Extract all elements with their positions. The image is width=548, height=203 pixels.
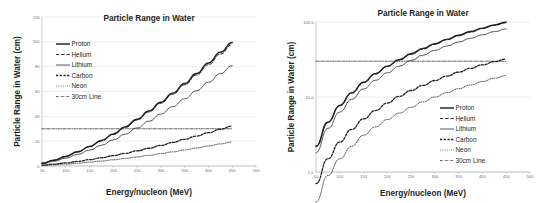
y-tick-label: 100.0: [303, 20, 314, 25]
legend-label-proton: Proton: [456, 104, 475, 111]
x-tick-label: 500: [527, 174, 535, 179]
curve-helium: [316, 23, 506, 147]
x-tick-label: 250: [134, 168, 142, 173]
x-axis-title: Energy/nucleon (MeV): [380, 189, 466, 198]
y-tick-label: 40: [35, 114, 40, 119]
x-tick-label: 200: [384, 174, 392, 179]
legend-label-helium: Helium: [456, 115, 476, 122]
curve-carbon: [316, 59, 506, 184]
x-tick-label: 250: [408, 174, 416, 179]
legend-label-proton: Proton: [72, 40, 91, 47]
y-tick-label: 80: [35, 64, 40, 69]
legend-label-30cm-line: 30cm Line: [72, 93, 102, 100]
x-tick-label: 150: [360, 174, 368, 179]
linear-chart-svg: 0204060801001205010015020025030035040045…: [0, 0, 274, 203]
legend: ProtonHeliumLithiumCarbonNeon30cm Line: [56, 40, 101, 99]
x-tick-label: 400: [479, 174, 487, 179]
log-chart-svg: 1.010.0100.05010015020025030035040045050…: [274, 0, 548, 203]
x-tick-label: 450: [503, 174, 511, 179]
curve-lithium: [42, 66, 232, 164]
y-tick-label: 120: [33, 15, 41, 20]
legend-label-carbon: Carbon: [72, 72, 93, 79]
x-tick-label: 50: [314, 174, 319, 179]
legend: ProtonHeliumLithiumCarbonNeon30cm Line: [440, 104, 485, 164]
curve-carbon: [42, 126, 232, 165]
chart-title: Particle Range in Water: [377, 9, 469, 18]
x-tick-label: 450: [229, 168, 237, 173]
curve-neon: [42, 142, 232, 165]
x-axis-title: Energy/nucleon (MeV): [106, 188, 192, 197]
y-tick-label: 100: [33, 39, 41, 44]
legend-label-lithium: Lithium: [456, 125, 477, 132]
linear-panel: 0204060801001205010015020025030035040045…: [0, 0, 274, 203]
legend-label-neon: Neon: [456, 146, 472, 153]
log-panel: 1.010.0100.05010015020025030035040045050…: [274, 0, 548, 203]
y-axis-title: Particle Range in Water (cm): [13, 36, 22, 147]
x-tick-label: 350: [455, 174, 463, 179]
x-tick-label: 200: [110, 168, 118, 173]
legend-label-30cm-line: 30cm Line: [456, 157, 486, 164]
x-tick-label: 100: [336, 174, 344, 179]
y-tick-label: 20: [35, 139, 40, 144]
x-tick-label: 300: [431, 174, 439, 179]
figure-two-panel-charts: 0204060801001205010015020025030035040045…: [0, 0, 548, 203]
x-tick-label: 150: [86, 168, 94, 173]
legend-label-lithium: Lithium: [72, 61, 93, 68]
x-tick-label: 100: [62, 168, 70, 173]
legend-label-helium: Helium: [72, 51, 92, 58]
x-tick-label: 400: [205, 168, 213, 173]
y-axis-title: Particle Range in Water (cm): [287, 41, 296, 152]
legend-label-neon: Neon: [72, 82, 88, 89]
y-tick-label: 60: [35, 89, 40, 94]
x-tick-label: 350: [181, 168, 189, 173]
x-tick-label: 50: [40, 168, 45, 173]
x-tick-label: 300: [157, 168, 165, 173]
y-tick-label: 10.0: [306, 95, 315, 100]
chart-title: Particle Range in Water: [103, 14, 195, 23]
legend-label-carbon: Carbon: [456, 136, 477, 143]
x-tick-label: 500: [253, 168, 261, 173]
curve-proton: [316, 22, 506, 146]
